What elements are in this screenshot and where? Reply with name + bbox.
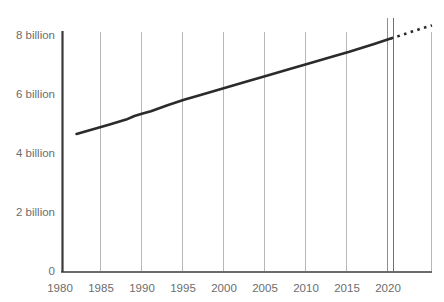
xtick-label-2020: 2020 [375, 282, 401, 294]
ytick-label-8b: 8 billion [16, 29, 55, 41]
xtick-label-2000: 2000 [211, 282, 237, 294]
xtick-label-2005: 2005 [252, 282, 278, 294]
ytick-label-4b: 4 billion [16, 147, 55, 159]
xtick-label-2010: 2010 [293, 282, 319, 294]
vertical-gridlines [101, 18, 432, 271]
xtick-label-1980: 1980 [47, 282, 73, 294]
x-axis-tick-labels: 1980 1985 1990 1995 2000 2005 2010 2015 … [47, 282, 401, 294]
xtick-label-2015: 2015 [334, 282, 360, 294]
xtick-label-1995: 1995 [170, 282, 196, 294]
ytick-label-2b: 2 billion [16, 206, 55, 218]
chart-canvas: 8 billion 6 billion 4 billion 2 billion … [0, 0, 444, 302]
xtick-label-1985: 1985 [88, 282, 114, 294]
ytick-label-0: 0 [49, 265, 55, 277]
xtick-label-1990: 1990 [129, 282, 155, 294]
population-line-chart: 8 billion 6 billion 4 billion 2 billion … [0, 0, 444, 302]
series-line-historical [77, 39, 391, 134]
series-line-projected [391, 25, 432, 38]
ytick-label-6b: 6 billion [16, 88, 55, 100]
y-axis-tick-labels: 8 billion 6 billion 4 billion 2 billion … [16, 29, 55, 277]
